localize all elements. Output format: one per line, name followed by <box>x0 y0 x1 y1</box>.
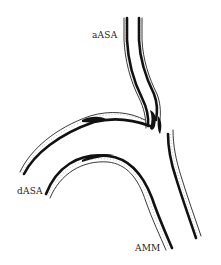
vessel-diagram: aASA dASA AMM <box>0 0 221 265</box>
label-amm: AMM <box>135 243 161 253</box>
aasa-vessel <box>124 18 160 128</box>
junction-stenosis-2 <box>158 116 162 134</box>
label-aasa: aASA <box>92 30 117 40</box>
lower-arch-vessel <box>46 154 172 250</box>
descending-vessel <box>168 130 201 238</box>
label-dasa: dASA <box>17 186 43 196</box>
